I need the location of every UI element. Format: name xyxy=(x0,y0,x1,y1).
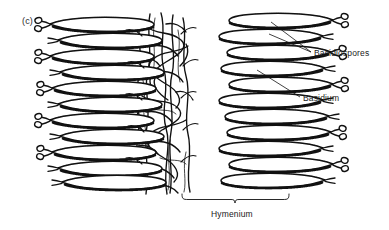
panel-label: (c) xyxy=(22,16,33,26)
label-hymenium: Hymenium xyxy=(211,209,253,219)
hymenium-figure xyxy=(0,0,389,230)
label-basidiospores: Basidiospores xyxy=(314,48,369,58)
label-basidium: Basidium xyxy=(303,93,339,103)
